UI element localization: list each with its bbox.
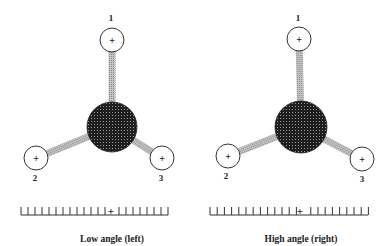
scale-center-marker: + [108, 205, 114, 217]
central-atom [275, 101, 327, 153]
plus-charge-icon: + [225, 151, 231, 162]
plus-charge-icon: + [159, 153, 165, 164]
panel-high-angle: +1+2+3+High angle (right) [210, 13, 374, 245]
panel-caption: High angle (right) [265, 234, 338, 245]
substituent-label: 1 [109, 13, 114, 23]
substituent-label: 1 [296, 13, 301, 23]
substituent-label: 3 [159, 173, 164, 183]
substituent-label: 2 [224, 171, 229, 181]
molecule-angle-diagram: +1+2+3+Low angle (left) +1+2+3+High angl… [0, 0, 392, 246]
plus-charge-icon: + [296, 34, 302, 45]
angle-scale: + [21, 205, 168, 217]
panel-low-angle: +1+2+3+Low angle (left) [21, 13, 174, 245]
plus-charge-icon: + [33, 153, 39, 164]
angle-scale: + [210, 205, 368, 217]
scale-center-marker: + [297, 205, 303, 217]
substituent-label: 3 [360, 174, 365, 184]
plus-charge-icon: + [109, 35, 115, 46]
substituent-label: 2 [33, 173, 38, 183]
plus-charge-icon: + [359, 154, 365, 165]
central-atom [87, 102, 137, 152]
panel-caption: Low angle (left) [80, 234, 144, 245]
